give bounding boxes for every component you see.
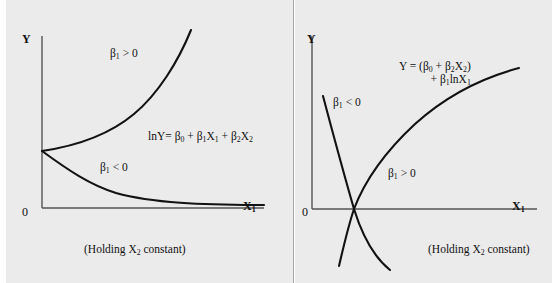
equation-term-b2-var: X [241, 130, 249, 142]
left-y-axis-label: Y [22, 33, 31, 47]
equation-term-b1-var-sub: 1 [215, 135, 219, 144]
beta-relation: < 0 [343, 96, 361, 108]
left-x-axis-label-base: X [243, 199, 252, 213]
curve-beta1-negative [42, 151, 264, 205]
right-caption-suffix: constant) [485, 243, 530, 255]
panel-divider [293, 0, 294, 283]
equation-term-b1-sub: 1 [203, 135, 207, 144]
equation-plus-2: + [219, 130, 231, 142]
left-caption-sub: 2 [137, 248, 141, 257]
right-x-axis-label-base: X [512, 199, 521, 213]
left-caption-prefix: (Holding X [84, 243, 137, 255]
beta-symbol: β [110, 47, 116, 59]
equation-term-b1-var: X [206, 130, 214, 142]
right-x-axis-label: X1 [512, 200, 525, 214]
equation-symbol: β [423, 60, 429, 72]
curve-beta1-negative [323, 96, 390, 270]
equation-subscript: 0 [429, 65, 433, 74]
beta-relation: < 0 [110, 161, 128, 173]
equation-subscript: 1 [467, 78, 471, 87]
right-x-axis-label-sub: 1 [521, 205, 525, 214]
equation-symbol: β [445, 60, 451, 72]
equation-subscript: 1 [446, 78, 450, 87]
left-origin-label: 0 [22, 206, 28, 220]
beta-subscript: 1 [339, 101, 343, 110]
beta-symbol: β [388, 167, 394, 179]
equation-term-b2-var-sub: 2 [249, 135, 253, 144]
figure-root: Y X1 0 β1 > 0 β1 < 0 lnY= β0 + β1X1 + β2… [0, 0, 558, 283]
equation-symbol: X [455, 60, 463, 72]
equation-term-b0-sub: 0 [180, 135, 184, 144]
beta-subscript: 1 [116, 52, 120, 61]
left-annotation-beta1-positive: β1 > 0 [110, 47, 138, 60]
equation-lhs: lnY= [148, 130, 175, 142]
panel-lin-log [295, 0, 552, 283]
equation-symbol: β [440, 73, 446, 85]
lin-log-plot [295, 0, 552, 283]
left-x-axis-label-sub: 1 [252, 205, 256, 214]
equation-subscript: 2 [451, 65, 455, 74]
left-model-equation: lnY= β0 + β1X1 + β2X2 [148, 130, 253, 143]
equation-term-b1: β [197, 130, 203, 142]
curve-beta1-positive [339, 68, 519, 266]
left-x-axis-label: X1 [243, 200, 256, 214]
left-annotation-beta1-negative: β1 < 0 [100, 161, 128, 174]
right-equation-line-1: Y = (β0 + β2X2) [399, 60, 471, 73]
right-caption: (Holding X2 constant) [428, 243, 530, 256]
beta-symbol: β [333, 96, 339, 108]
right-y-axis-label: Y [307, 33, 316, 47]
right-model-equation: Y = (β0 + β2X2)+ β1lnX1 [399, 60, 471, 86]
left-caption-suffix: constant) [141, 243, 186, 255]
right-caption-prefix: (Holding X [428, 243, 481, 255]
right-origin-label: 0 [302, 206, 308, 220]
equation-term-b2: β [231, 130, 237, 142]
beta-subscript: 1 [394, 172, 398, 181]
equation-symbol: lnX [450, 73, 467, 85]
beta-relation: > 0 [120, 47, 138, 59]
right-caption-sub: 2 [481, 248, 485, 257]
right-equation-line-2: + β1lnX1 [399, 73, 471, 86]
equation-plus-1: + [184, 130, 196, 142]
left-caption: (Holding X2 constant) [84, 243, 186, 256]
equation-subscript: 2 [463, 65, 467, 74]
right-annotation-beta1-negative: β1 < 0 [333, 96, 361, 109]
beta-symbol: β [100, 161, 106, 173]
beta-subscript: 1 [106, 166, 110, 175]
right-annotation-beta1-positive: β1 > 0 [388, 167, 416, 180]
beta-relation: > 0 [398, 167, 416, 179]
equation-term-b2-sub: 2 [237, 135, 241, 144]
